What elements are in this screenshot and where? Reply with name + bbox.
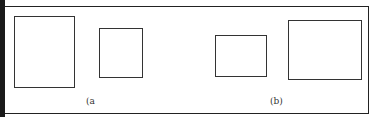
panel-b-label: (b)	[270, 96, 283, 106]
panel-a-small-rectangle	[99, 28, 143, 78]
panel-a-label: (a	[86, 96, 95, 106]
panel-b-wide-rectangle	[288, 20, 362, 80]
panel-b-small-rectangle	[215, 35, 267, 77]
panel-a-tall-rectangle	[14, 16, 75, 88]
